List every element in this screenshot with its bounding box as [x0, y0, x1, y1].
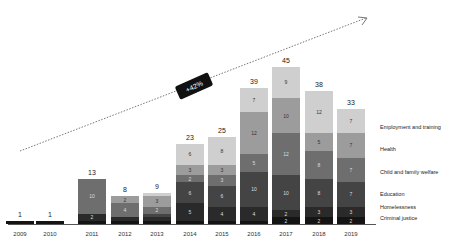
x-tick-label: 2014 — [173, 231, 207, 237]
bar-segment: 5 — [176, 203, 204, 221]
legend-item: Child and family welfare — [380, 169, 438, 175]
x-tick-label: 2012 — [108, 231, 142, 237]
x-tick-label: 2016 — [237, 231, 271, 237]
bar-2016: 4105127 — [240, 88, 268, 225]
bar-segment: 8 — [208, 137, 236, 165]
bar-2018: 2388512 — [305, 91, 333, 224]
legend-item: Homelessness — [380, 204, 416, 210]
bar-total-label: 38 — [305, 81, 333, 88]
bar-total-label: 45 — [272, 57, 300, 64]
bar-2009 — [6, 221, 34, 225]
bar-2012: 42 — [111, 196, 139, 224]
x-tick-label: 2015 — [205, 231, 239, 237]
bar-segment: 2 — [143, 207, 171, 214]
stacked-bar-chart: +42% 12009120102101320114282012239201356… — [0, 0, 459, 248]
x-tick-label: 2013 — [140, 231, 174, 237]
legend-item: Health — [380, 146, 396, 152]
bar-2019: 237777 — [337, 109, 365, 225]
bar-segment: 2 — [337, 217, 365, 224]
bar-segment: 3 — [305, 207, 333, 218]
bar-segment: 3 — [208, 165, 236, 176]
bar-segment: 7 — [337, 109, 365, 134]
bar-segment: 4 — [208, 207, 236, 221]
bar-segment: 5 — [305, 133, 333, 151]
legend-item: Employment and training — [380, 124, 441, 130]
bar-segment: 2 — [272, 217, 300, 224]
bar-segment: 4 — [240, 207, 268, 221]
bar-total-label: 9 — [143, 183, 171, 190]
bar-segment — [36, 221, 64, 225]
bar-total-label: 1 — [6, 211, 34, 218]
bar-total-label: 25 — [208, 127, 236, 134]
bar-segment — [78, 221, 106, 225]
x-tick-label: 2009 — [3, 231, 37, 237]
bar-segment: 3 — [208, 175, 236, 186]
bar-segment: 3 — [337, 207, 365, 218]
bar-segment: 6 — [208, 186, 236, 207]
bar-segment: 10 — [78, 179, 106, 214]
bar-segment: 5 — [240, 154, 268, 172]
bar-2011: 210 — [78, 179, 106, 225]
bar-total-label: 1 — [36, 211, 64, 218]
bar-segment: 12 — [272, 133, 300, 175]
x-tick-label: 2010 — [33, 231, 67, 237]
bar-segment: 8 — [305, 151, 333, 179]
bar-2017: 221012109 — [272, 67, 300, 225]
bar-segment: 7 — [337, 158, 365, 183]
x-tick-label: 2011 — [75, 231, 109, 237]
bar-total-label: 39 — [240, 78, 268, 85]
x-tick-label: 2018 — [302, 231, 336, 237]
bar-segment: 7 — [337, 133, 365, 158]
bar-segment — [111, 221, 139, 225]
bar-segment: 2 — [78, 214, 106, 221]
bar-total-label: 13 — [78, 169, 106, 176]
legend-item: Education — [380, 191, 404, 197]
bar-segment: 6 — [176, 182, 204, 203]
x-tick-label: 2017 — [269, 231, 303, 237]
bar-segment: 3 — [143, 196, 171, 207]
bar-segment: 2 — [272, 210, 300, 217]
bar-segment: 8 — [305, 179, 333, 207]
bar-2014: 56236 — [176, 144, 204, 225]
bar-total-label: 23 — [176, 134, 204, 141]
bar-segment: 10 — [272, 98, 300, 133]
bar-segment: 6 — [176, 144, 204, 165]
bar-segment: 3 — [176, 165, 204, 176]
bar-segment: 9 — [272, 67, 300, 99]
bar-total-label: 8 — [111, 186, 139, 193]
bar-segment: 2 — [176, 175, 204, 182]
bar-segment — [176, 221, 204, 225]
x-tick-label: 2019 — [334, 231, 368, 237]
bar-2010 — [36, 221, 64, 225]
bar-segment: 7 — [240, 88, 268, 113]
bar-segment: 12 — [240, 112, 268, 154]
bar-segment: 10 — [272, 175, 300, 210]
bar-segment: 7 — [337, 182, 365, 207]
legend-item: Criminal justice — [380, 215, 417, 221]
bar-segment — [208, 221, 236, 225]
bar-segment — [6, 221, 34, 225]
bar-segment: 2 — [111, 196, 139, 203]
bar-segment: 12 — [305, 91, 333, 133]
x-axis-baseline — [8, 224, 376, 225]
bar-segment: 4 — [111, 203, 139, 217]
bar-segment — [143, 221, 171, 225]
bar-total-label: 33 — [337, 99, 365, 106]
bar-segment: 2 — [305, 217, 333, 224]
bar-2015: 46338 — [208, 137, 236, 225]
bar-segment — [240, 221, 268, 225]
bar-segment: 10 — [240, 172, 268, 207]
bar-2013: 23 — [143, 193, 171, 225]
